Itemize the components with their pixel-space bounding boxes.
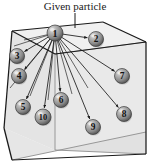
particle-label-6: 6	[59, 95, 64, 105]
figure-canvas: 12345678910 Given particle	[0, 0, 150, 166]
particle-label-4: 4	[17, 71, 22, 81]
particle-label-1: 1	[53, 28, 58, 39]
particle-label-9: 9	[91, 122, 96, 132]
figure-caption: Given particle	[44, 0, 107, 12]
particle-label-7: 7	[120, 71, 125, 81]
particle-label-3: 3	[15, 51, 20, 61]
particle-interaction-figure: 12345678910 Given particle	[0, 0, 150, 166]
particle-label-8: 8	[122, 109, 127, 119]
particle-label-5: 5	[21, 102, 26, 112]
particle-label-10: 10	[39, 113, 47, 122]
particle-label-2: 2	[94, 34, 99, 44]
